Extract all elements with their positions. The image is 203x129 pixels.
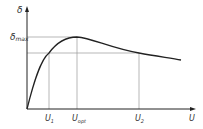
x-axis-label: U	[189, 114, 195, 123]
y-axis-arrow-icon	[25, 6, 29, 12]
delta-curve	[27, 37, 181, 109]
x-axis-arrow-icon	[190, 107, 196, 111]
u2-label: U2	[135, 114, 144, 124]
y-axis-label: δ	[17, 5, 23, 15]
uopt-label: Uopt	[72, 114, 87, 125]
delta-max-label: δmax	[10, 32, 29, 42]
u1-label: U1	[45, 114, 54, 124]
delta-vs-u-diagram: δ δmax U1 Uopt U2 U	[0, 0, 203, 129]
